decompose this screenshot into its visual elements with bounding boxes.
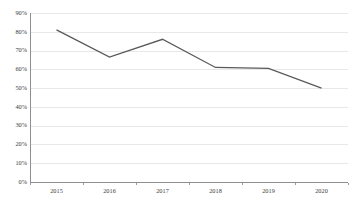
x-axis-tick-mark bbox=[348, 183, 349, 185]
x-axis-tick-label: 2020 bbox=[302, 188, 342, 194]
y-axis-tick-label: 10% bbox=[0, 160, 27, 166]
y-axis-tick-label: 20% bbox=[0, 141, 27, 147]
value-axis-line bbox=[30, 13, 31, 182]
x-axis-tick-label: 2015 bbox=[37, 188, 77, 194]
y-axis-tick-label: 50% bbox=[0, 85, 27, 91]
series-line bbox=[57, 30, 322, 88]
series-line-group bbox=[30, 13, 348, 182]
x-axis-tick-mark bbox=[189, 183, 190, 185]
y-axis-tick-label: 30% bbox=[0, 122, 27, 128]
x-axis-tick-label: 2018 bbox=[196, 188, 236, 194]
y-axis-tick-label: 90% bbox=[0, 10, 27, 16]
line-chart: 0%10%20%30%40%50%60%70%80%90% 2015201620… bbox=[0, 0, 358, 213]
y-axis-tick-label: 60% bbox=[0, 66, 27, 72]
x-axis-tick-mark bbox=[30, 183, 31, 185]
x-axis-tick-mark bbox=[83, 183, 84, 185]
y-axis-tick-label: 70% bbox=[0, 47, 27, 53]
x-axis-tick-label: 2017 bbox=[143, 188, 183, 194]
x-axis-tick-label: 2019 bbox=[249, 188, 289, 194]
x-axis-tick-label: 2016 bbox=[90, 188, 130, 194]
y-axis-tick-label: 80% bbox=[0, 29, 27, 35]
y-axis-tick-label: 0% bbox=[0, 179, 27, 185]
x-axis-tick-mark bbox=[242, 183, 243, 185]
x-axis-tick-mark bbox=[136, 183, 137, 185]
x-axis-tick-mark bbox=[295, 183, 296, 185]
y-axis-tick-label: 40% bbox=[0, 104, 27, 110]
